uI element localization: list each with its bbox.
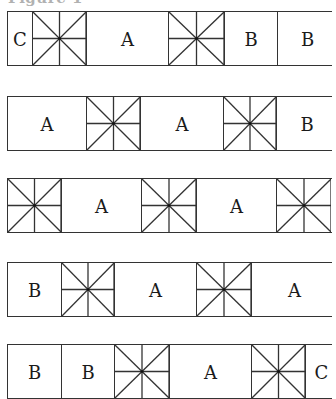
strip-row-4: BAA [7, 262, 332, 317]
cell-label: C [306, 361, 336, 382]
cell-label: A [141, 113, 223, 134]
cell-label: A [8, 113, 86, 134]
letter-cell-a: A [196, 179, 276, 232]
cell-label: A [170, 361, 251, 382]
eight-spoke-icon [62, 263, 114, 316]
eight-spoke-icon [87, 97, 140, 150]
star-grid-icon [86, 97, 140, 150]
star-grid-icon [276, 179, 331, 232]
letter-cell-a: A [7, 97, 86, 150]
eight-spoke-icon [252, 345, 305, 398]
letter-cell-a: A [114, 263, 196, 316]
letter-cell-a: A [140, 97, 223, 150]
star-grid-icon [141, 179, 196, 232]
cell-label: B [8, 279, 61, 300]
letter-cell-b: B [61, 345, 114, 398]
letter-cell-b: B [7, 263, 61, 316]
cell-label: C [8, 28, 32, 49]
eight-spoke-icon [115, 345, 169, 398]
letter-cell-c: C [7, 12, 32, 65]
letter-cell-b: B [277, 12, 336, 65]
star-grid-icon [168, 12, 224, 65]
cell-label: B [278, 28, 336, 49]
cell-label: B [225, 28, 277, 49]
eight-spoke-icon [197, 263, 251, 316]
star-grid-icon [223, 97, 276, 150]
cell-label: A [115, 279, 196, 300]
strip-row-1: CABB [7, 11, 332, 66]
eight-spoke-icon [224, 97, 276, 150]
letter-cell-a: A [61, 179, 141, 232]
star-grid-icon [196, 263, 251, 316]
eight-spoke-icon [169, 12, 224, 65]
star-grid-icon [32, 12, 86, 65]
eight-spoke-icon [142, 179, 196, 232]
cell-label: A [62, 195, 141, 216]
cell-label: B [62, 361, 114, 382]
cell-label: A [87, 28, 168, 49]
eight-spoke-icon [8, 179, 61, 232]
star-grid-icon [7, 179, 61, 232]
figure-title: Figure 1 [8, 0, 83, 7]
eight-spoke-icon [277, 179, 331, 232]
letter-cell-a: A [86, 12, 168, 65]
strip-row-2: AAB [7, 96, 332, 151]
star-grid-icon [61, 263, 114, 316]
star-grid-icon [114, 345, 169, 398]
cell-label: B [277, 113, 336, 134]
letter-cell-a: A [251, 263, 336, 316]
cell-label: B [8, 361, 61, 382]
letter-cell-b: B [7, 345, 61, 398]
strip-row-3: AA [7, 178, 332, 233]
letter-cell-c: C [305, 345, 336, 398]
strip-row-5: BBAC [7, 344, 332, 399]
cell-label: A [252, 279, 336, 300]
star-grid-icon [251, 345, 305, 398]
letter-cell-b: B [276, 97, 336, 150]
eight-spoke-icon [33, 12, 86, 65]
letter-cell-b: B [224, 12, 277, 65]
letter-cell-a: A [169, 345, 251, 398]
cell-label: A [197, 195, 276, 216]
